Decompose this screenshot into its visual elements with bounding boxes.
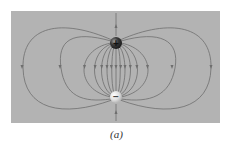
- arrow-down-icon: [135, 65, 138, 69]
- arrow-down-icon: [124, 65, 127, 69]
- arrow-up-icon: [115, 110, 118, 114]
- arrow-down-icon: [210, 65, 213, 69]
- arrow-down-icon: [100, 65, 103, 69]
- arrow-down-icon: [110, 65, 113, 69]
- arrow-down-icon: [129, 65, 132, 69]
- positive-charge: +: [110, 37, 122, 49]
- dipole-field-diagram: + −: [0, 0, 233, 148]
- arrow-down-icon: [115, 65, 118, 69]
- arrow-down-icon: [83, 65, 86, 69]
- arrow-down-icon: [106, 65, 109, 69]
- arrow-up-icon: [115, 24, 118, 28]
- field-lines: [23, 13, 211, 121]
- arrow-down-icon: [119, 65, 122, 69]
- plus-sign-icon: +: [113, 38, 119, 49]
- negative-charge: −: [110, 91, 122, 103]
- arrow-down-icon: [146, 65, 149, 69]
- minus-sign-icon: −: [113, 91, 119, 102]
- caption-text: (a): [110, 128, 123, 140]
- arrow-down-icon: [94, 65, 97, 69]
- arrow-down-icon: [171, 65, 174, 69]
- figure-caption: (a): [0, 128, 233, 140]
